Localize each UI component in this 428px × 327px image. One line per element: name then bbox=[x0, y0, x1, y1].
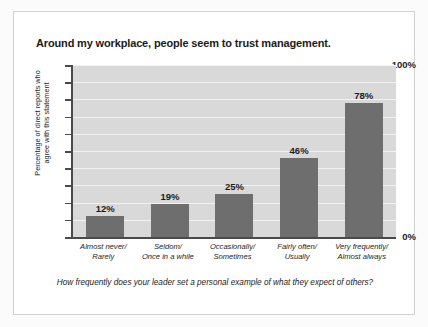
plot-wrapper: 100% 0% Percentage of direct reports who… bbox=[14, 12, 416, 316]
x-axis-category-label: Very frequently/Almost always bbox=[329, 242, 394, 261]
x-axis-category-line: Once in a while bbox=[136, 252, 201, 262]
bar-value-label: 78% bbox=[354, 90, 373, 101]
chart-caption: How frequently does your leader set a pe… bbox=[14, 278, 416, 287]
bar-slot: 19% bbox=[138, 65, 203, 237]
x-axis-category-label: Almost never/Rarely bbox=[71, 242, 136, 261]
bar bbox=[280, 158, 318, 237]
bar-value-label: 19% bbox=[160, 191, 179, 202]
x-axis-labels: Almost never/RarelySeldom/Once in a whil… bbox=[71, 242, 394, 272]
y-axis-title-line-2: agree with this statement bbox=[42, 48, 51, 198]
y-axis-tick bbox=[65, 220, 71, 222]
y-axis-title-line-1: Percentage of direct reports who bbox=[33, 48, 42, 198]
x-axis-category-label: Seldom/Once in a while bbox=[136, 242, 201, 261]
page-background: Around my workplace, people seem to trus… bbox=[0, 0, 428, 327]
x-axis-category-label: Occasionally/Sometimes bbox=[200, 242, 265, 261]
x-axis-category-line: Almost always bbox=[329, 252, 394, 262]
y-axis-tick bbox=[65, 117, 71, 119]
x-axis-category-line: Sometimes bbox=[200, 252, 265, 262]
bar bbox=[345, 103, 383, 237]
bar-value-label: 25% bbox=[225, 181, 244, 192]
bar bbox=[151, 204, 189, 237]
bar-value-label: 46% bbox=[290, 145, 309, 156]
y-axis-tick bbox=[65, 203, 71, 205]
x-axis-category-line: Occasionally/ bbox=[200, 242, 265, 252]
x-axis-category-line: Fairly often/ bbox=[265, 242, 330, 252]
y-axis-tick bbox=[65, 65, 71, 67]
plot-area: 12%19%25%46%78% bbox=[71, 65, 396, 237]
x-axis-category-line: Almost never/ bbox=[71, 242, 136, 252]
bar-slot: 25% bbox=[202, 65, 267, 237]
x-axis-category-line: Rarely bbox=[71, 252, 136, 262]
y-axis-tick bbox=[65, 82, 71, 84]
bar-value-label: 12% bbox=[96, 203, 115, 214]
y-axis-title: Percentage of direct reports who agree w… bbox=[33, 48, 51, 198]
x-axis-category-label: Fairly often/Usually bbox=[265, 242, 330, 261]
bar-slot: 78% bbox=[331, 65, 396, 237]
chart-card: Around my workplace, people seem to trus… bbox=[13, 11, 415, 315]
y-axis-tick bbox=[65, 99, 71, 101]
y-axis-tick bbox=[65, 151, 71, 153]
y-axis-tick bbox=[65, 134, 71, 136]
bar-slot: 46% bbox=[267, 65, 332, 237]
bar bbox=[215, 194, 253, 237]
bar-slot: 12% bbox=[73, 65, 138, 237]
x-axis-category-line: Very frequently/ bbox=[329, 242, 394, 252]
x-axis-line bbox=[71, 237, 396, 239]
x-axis-category-line: Seldom/ bbox=[136, 242, 201, 252]
bar bbox=[86, 216, 124, 237]
y-axis-tick bbox=[65, 168, 71, 170]
x-axis-category-line: Usually bbox=[265, 252, 330, 262]
y-axis-tick bbox=[65, 185, 71, 187]
